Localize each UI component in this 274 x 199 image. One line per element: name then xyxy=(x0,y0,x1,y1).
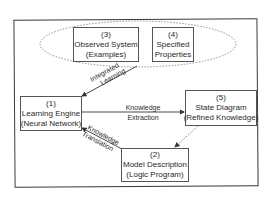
node-number: (5) xyxy=(216,93,226,103)
node-subtitle: (Logic Program) xyxy=(126,170,183,180)
node-subtitle: Properties xyxy=(155,50,191,60)
node-learning-engine: (1) Learning Engine (Neural Network) xyxy=(20,96,82,131)
edge-label-line: Knowledge xyxy=(118,103,168,112)
node-subtitle: (Examples) xyxy=(86,50,126,60)
node-title: Observed System xyxy=(74,40,138,50)
node-subtitle: (Neural Network) xyxy=(21,119,81,129)
node-specified-properties: (4) Specified Properties xyxy=(152,27,194,62)
node-title: State Diagram xyxy=(195,103,246,113)
edge-label-knowledge-extraction: Knowledge Extraction xyxy=(118,103,168,122)
node-number: (1) xyxy=(46,99,56,109)
node-state-diagram: (5) State Diagram (Refined Knowledge) xyxy=(185,90,257,126)
edge-label-line: Extraction xyxy=(118,114,168,122)
node-observed-system: (3) Observed System (Examples) xyxy=(73,27,139,62)
node-title: Learning Engine xyxy=(22,109,80,119)
node-model-description: (2) Model Description (Logic Program) xyxy=(121,148,189,182)
node-number: (2) xyxy=(150,150,160,160)
node-subtitle: (Refined Knowledge) xyxy=(184,113,259,123)
arrow-refinement-dotted xyxy=(175,126,198,147)
node-title: Specified xyxy=(157,40,190,50)
node-title: Model Description xyxy=(123,160,187,170)
node-number: (4) xyxy=(168,30,178,40)
node-number: (3) xyxy=(101,30,111,40)
